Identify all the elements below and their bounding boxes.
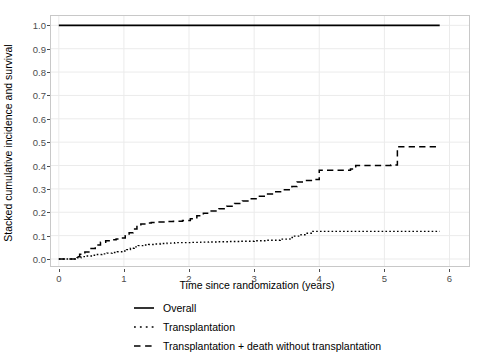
- legend-label: Transplantation: [157, 321, 235, 333]
- legend-key-dotted-icon: [131, 320, 157, 334]
- y-tick-label: 0.1: [20, 230, 46, 241]
- legend-key-solid-icon: [131, 301, 157, 315]
- plot-panel: [50, 15, 470, 267]
- y-tick-label: 0.9: [20, 43, 46, 54]
- y-tick-label: 0.5: [20, 137, 46, 148]
- legend-label: Overall: [157, 302, 196, 314]
- x-axis-title: Time since randomization (years): [57, 279, 457, 291]
- x-tick-mark: [124, 269, 125, 272]
- x-tick-mark: [59, 269, 60, 272]
- y-tick-label: 0.2: [20, 207, 46, 218]
- plot-svg: [51, 16, 469, 266]
- y-tick-label: 0.6: [20, 113, 46, 124]
- y-tick-label: 1.0: [20, 20, 46, 31]
- y-tick-label: 0.7: [20, 90, 46, 101]
- x-tick-mark: [254, 269, 255, 272]
- y-axis-tick-labels: 0.00.10.20.30.40.50.60.70.80.91.0: [14, 0, 46, 360]
- legend-label: Transplantation + death without transpla…: [157, 340, 381, 352]
- x-tick-mark: [449, 269, 450, 272]
- y-axis-title-text: Stacked cumulative incidence and surviva…: [2, 44, 14, 241]
- x-tick-mark: [189, 269, 190, 272]
- y-tick-label: 0.8: [20, 67, 46, 78]
- legend-key-dashed-icon: [131, 339, 157, 353]
- chart-legend: OverallTransplantationTransplantation + …: [131, 298, 461, 355]
- y-tick-label: 0.3: [20, 183, 46, 194]
- series-line-3: [59, 147, 440, 259]
- y-tick-label: 0.4: [20, 160, 46, 171]
- x-tick-mark: [319, 269, 320, 272]
- x-tick-mark: [384, 269, 385, 272]
- legend-item-3[interactable]: Transplantation + death without transpla…: [131, 336, 461, 355]
- chart-figure: Stacked cumulative incidence and surviva…: [0, 0, 487, 360]
- legend-item-1[interactable]: Overall: [131, 298, 461, 317]
- legend-item-2[interactable]: Transplantation: [131, 317, 461, 336]
- y-tick-label: 0.0: [20, 253, 46, 264]
